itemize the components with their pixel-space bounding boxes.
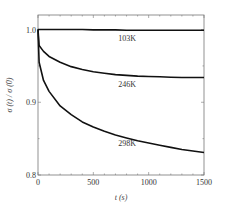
x-axis-title: t (s) — [115, 193, 128, 202]
y-tick-label: 0.8 — [26, 171, 36, 180]
series-line-298K — [38, 30, 204, 153]
series-line-103K — [38, 30, 204, 31]
x-tick-label: 0 — [36, 178, 40, 187]
x-tick-label: 500 — [87, 178, 99, 187]
chart: 0500100015000.80.91.0 103K246K298K t (s)… — [0, 0, 225, 210]
series-lines — [38, 30, 204, 153]
x-tick-label: 1000 — [141, 178, 157, 187]
series-label-298K: 298K — [118, 139, 136, 148]
y-tick-label: 1.0 — [26, 26, 36, 35]
series-labels: 103K246K298K — [118, 34, 136, 148]
y-axis-title: σ (t) / σ (0) — [5, 77, 14, 112]
series-label-246K: 246K — [118, 80, 136, 89]
y-tick-label: 0.9 — [26, 98, 36, 107]
series-label-103K: 103K — [118, 34, 136, 43]
x-tick-label: 1500 — [196, 178, 212, 187]
tick-labels: 0500100015000.80.91.0 — [26, 26, 212, 187]
